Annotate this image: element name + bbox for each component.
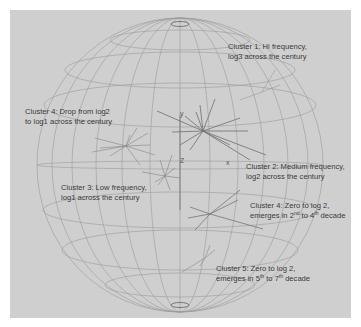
annotation-cluster-1: Cluster 1: Hi frequency, log3 across the… — [228, 42, 307, 62]
annotation-cluster-4-emerge: Cluster 4: Zero to log 2, emerges in 2nd… — [250, 201, 345, 221]
y-axis-label: y — [180, 110, 184, 117]
x-axis-label: x — [226, 159, 230, 166]
annotation-cluster-2: Cluster 2: Medium frequency, log2 across… — [246, 162, 345, 182]
annotation-cluster-3: Cluster 3: Low frequency, log1 across th… — [61, 183, 147, 203]
annotation-cluster-5: Cluster 5: Zero to log 2, emerges in 5th… — [216, 264, 310, 284]
cluster-3-vectors — [142, 155, 180, 190]
annotation-cluster-4-drop: Cluster 4: Drop from log2 to log1 across… — [25, 107, 112, 127]
z-axis-label: Z — [180, 157, 184, 164]
cluster-5-vectors — [182, 245, 215, 272]
cluster-2-vectors — [157, 99, 266, 160]
